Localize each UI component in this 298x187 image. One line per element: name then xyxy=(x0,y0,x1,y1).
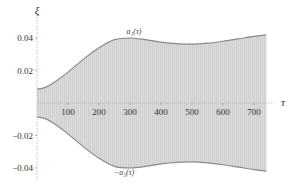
x-tick-label: 400 xyxy=(154,107,168,117)
x-tick-label: 200 xyxy=(92,107,106,117)
x-tick-label: 600 xyxy=(216,107,230,117)
x-axis-title: τ xyxy=(281,96,286,108)
y-tick-label: 0.04 xyxy=(17,33,33,43)
envelope-chart: 0.040.02−0.02−0.04 100200300400500600700… xyxy=(0,0,298,187)
x-tick-label: 300 xyxy=(123,107,137,117)
lower-curve-label: −a₁(τ) xyxy=(114,168,135,177)
y-tick-label: −0.04 xyxy=(12,163,33,173)
y-tick-label: −0.02 xyxy=(12,131,33,141)
y-tick-label: 0.02 xyxy=(17,66,33,76)
upper-curve-label: a₁(τ) xyxy=(127,27,142,36)
y-axis-title: ξ xyxy=(35,4,40,17)
x-tick-label: 100 xyxy=(61,107,75,117)
y-tick-group: 0.040.02−0.02−0.04 xyxy=(12,33,37,173)
x-tick-label: 500 xyxy=(185,107,199,117)
x-tick-label: 700 xyxy=(247,107,261,117)
